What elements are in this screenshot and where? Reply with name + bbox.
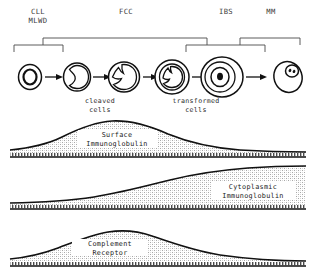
stage-label-ibs-line1: IBS (219, 7, 233, 16)
stage-label-cll-line1: CLL (31, 7, 45, 16)
band-surface-immunoglobulin: Surface Immunoglobulin (10, 121, 306, 157)
stage-label-cll-line2: MLWD (29, 16, 48, 25)
surface-ig-area (10, 121, 306, 153)
cell-small-lymphocyte (19, 65, 42, 90)
surface-ig-baseline-band (10, 153, 306, 156)
cytoplasmic-ig-label-line2: Immunoglobulin (222, 192, 284, 200)
bracket-mm (240, 38, 300, 45)
transformed-line2: cells (185, 106, 206, 114)
cytoplasmic-ig-label-line1: Cytoplasmic (229, 183, 277, 191)
stage-label-fcc: FCC (119, 7, 133, 16)
arrow-5 (246, 74, 267, 80)
bracket-cll (14, 45, 63, 52)
cell-large-cleaved (109, 62, 140, 92)
complement-receptor-label-line1: Complement (88, 240, 132, 248)
transformed-line1: transformed (173, 97, 220, 105)
surface-ig-label-line1: Surface (102, 131, 133, 139)
stage-label-mm-line1: MM (266, 7, 276, 16)
bracket-ibs (186, 45, 265, 52)
band-complement-receptor: Complement Receptor (10, 231, 306, 266)
stage-label-cll: CLL MLWD (29, 7, 48, 25)
stage-label-mm: MM (266, 7, 276, 16)
surface-ig-label-line2: Immunoglobulin (86, 140, 148, 148)
band-cytoplasmic-immunoglobulin: Cytoplasmic Immunoglobulin (10, 166, 306, 209)
arrow-1 (45, 74, 63, 80)
stage-label-ibs: IBS (219, 7, 233, 16)
cell-label-transformed: transformed cells (173, 97, 220, 114)
complement-receptor-label-line2: Receptor (92, 249, 127, 257)
cytoplasmic-ig-baseline-band (10, 205, 306, 208)
cleaved-line1: cleaved (85, 97, 115, 105)
cell-transformed-blast (201, 57, 243, 97)
b-cell-differentiation-figure: CLL MLWD FCC IBS MM (0, 0, 314, 272)
cell-small-cleaved (64, 63, 91, 91)
cell-plasma-cell (270, 58, 306, 96)
stage-label-fcc-line1: FCC (119, 7, 133, 16)
cell-label-cleaved: cleaved cells (85, 97, 115, 114)
complement-receptor-baseline-band (10, 262, 306, 265)
bracket-fcc (43, 38, 207, 45)
cleaved-line2: cells (89, 106, 110, 114)
cell-small-noncleaved (155, 60, 189, 94)
complement-receptor-area (10, 231, 306, 262)
